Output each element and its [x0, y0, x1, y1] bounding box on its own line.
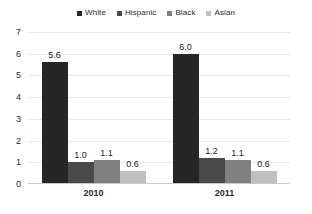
bar-black-2011[interactable]: 1.1	[225, 32, 251, 184]
y-axis-tick-label: 3	[16, 114, 21, 123]
legend-swatch-icon	[77, 11, 82, 16]
bar-rect: 1.1	[94, 160, 120, 184]
bar-value-label: 5.6	[48, 51, 61, 60]
bars-layer: 5.61.01.10.66.01.21.10.6	[28, 32, 290, 184]
bar-group-2010: 5.61.01.10.6	[42, 32, 146, 184]
legend-label: Black	[175, 9, 195, 17]
bar-rect: 1.2	[199, 158, 225, 184]
legend-label: Asian	[214, 9, 235, 17]
bar-value-label: 1.1	[231, 149, 244, 158]
bar-value-label: 0.6	[257, 160, 270, 169]
legend-label: White	[85, 9, 106, 17]
y-axis-tick-label: 5	[16, 71, 21, 80]
bar-white-2010[interactable]: 5.6	[42, 32, 68, 184]
bar-value-label: 1.2	[205, 147, 218, 156]
legend-swatch-icon	[167, 11, 172, 16]
legend-item-asian[interactable]: Asian	[206, 9, 235, 17]
bar-asian-2011[interactable]: 0.6	[251, 32, 277, 184]
legend-swatch-icon	[117, 11, 122, 16]
legend-label: Hispanic	[125, 9, 156, 17]
bar-value-label: 6.0	[179, 43, 192, 52]
legend-item-white[interactable]: White	[77, 9, 106, 17]
bar-group-2011: 6.01.21.10.6	[173, 32, 277, 184]
x-axis: 20102011	[28, 186, 290, 206]
x-axis-tick-label: 2011	[215, 189, 235, 198]
bar-value-label: 1.0	[74, 151, 87, 160]
legend-swatch-icon	[206, 11, 211, 16]
y-axis-tick-label: 2	[16, 136, 21, 145]
plot-area: 5.61.01.10.66.01.21.10.6	[28, 32, 290, 184]
bar-white-2011[interactable]: 6.0	[173, 32, 199, 184]
bar-value-label: 1.1	[100, 149, 113, 158]
chart-legend: WhiteHispanicBlackAsian	[0, 9, 312, 17]
x-axis-line	[28, 183, 290, 184]
bar-black-2010[interactable]: 1.1	[94, 32, 120, 184]
x-axis-tick-label: 2010	[83, 189, 103, 198]
y-axis-tick-label: 4	[16, 93, 21, 102]
bar-asian-2010[interactable]: 0.6	[120, 32, 146, 184]
bar-value-label: 0.6	[126, 160, 139, 169]
y-axis-tick-label: 7	[16, 28, 21, 37]
bar-rect: 5.6	[42, 62, 68, 184]
bar-rect: 1.0	[68, 162, 94, 184]
bar-rect: 1.1	[225, 160, 251, 184]
bar-chart: WhiteHispanicBlackAsian 01234567 5.61.01…	[0, 0, 312, 214]
bar-hispanic-2011[interactable]: 1.2	[199, 32, 225, 184]
bar-hispanic-2010[interactable]: 1.0	[68, 32, 94, 184]
y-axis-tick-label: 1	[16, 158, 21, 167]
legend-item-hispanic[interactable]: Hispanic	[117, 9, 156, 17]
y-axis-tick-label: 0	[16, 180, 21, 189]
legend-item-black[interactable]: Black	[167, 9, 195, 17]
y-axis-tick-label: 6	[16, 49, 21, 58]
y-axis: 01234567	[0, 0, 26, 214]
bar-rect: 6.0	[173, 54, 199, 184]
